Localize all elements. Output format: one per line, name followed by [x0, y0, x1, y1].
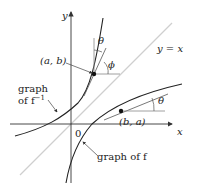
- inverse-function-diagram: y x 0 y = x (a, b) (b, a) θ ϕ θ graph of…: [0, 0, 202, 184]
- pointer-f: [83, 142, 98, 156]
- identity-line-label: y = x: [156, 43, 183, 54]
- x-axis-label: x: [177, 126, 183, 137]
- inverse-superscript: −1: [35, 94, 45, 102]
- y-axis-label: y: [61, 10, 68, 21]
- f-curve: [66, 84, 182, 183]
- pointer-inverse: [48, 100, 57, 112]
- origin-label: 0: [75, 128, 81, 139]
- tangent-line-ab: [84, 48, 106, 96]
- pointer-ab: [66, 63, 92, 73]
- inverse-curve: [15, 18, 103, 136]
- inverse-label-text: of f: [18, 95, 36, 106]
- theta-right-label: θ: [158, 95, 164, 106]
- point-ab-label: (a, b): [40, 55, 67, 66]
- phi-label: ϕ: [108, 59, 115, 70]
- point-ba-label: (b, a): [119, 116, 146, 127]
- theta-top-label: θ: [98, 35, 104, 46]
- point-ab: [92, 72, 96, 76]
- inverse-label-line2: of f−1: [18, 94, 45, 106]
- theta-arc-top: [94, 50, 102, 52]
- point-ba: [119, 109, 123, 113]
- f-label: graph of f: [97, 151, 148, 162]
- inverse-label-line1: graph: [18, 83, 49, 94]
